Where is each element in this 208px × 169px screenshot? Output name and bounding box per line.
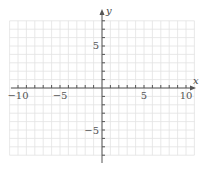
x-tick-label-5: 5: [141, 90, 147, 101]
axes: [11, 9, 196, 163]
y-axis-arrow-icon: [100, 9, 105, 15]
tick-labels: −10 −5 5 10 5 −5 x y: [7, 5, 199, 136]
x-tick-label-neg10: −10: [7, 90, 28, 101]
coordinate-plane: −10 −5 5 10 5 −5 x y: [0, 0, 208, 169]
y-axis-label: y: [105, 5, 112, 16]
x-axis-label: x: [193, 75, 199, 86]
x-tick-label-neg5: −5: [53, 90, 68, 101]
y-tick-label-neg5: −5: [84, 125, 99, 136]
x-tick-label-10: 10: [180, 90, 193, 101]
y-tick-label-5: 5: [93, 40, 99, 51]
